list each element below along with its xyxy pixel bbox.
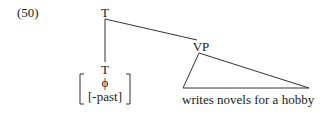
node-root-t: T <box>101 6 109 19</box>
left-bracket <box>80 74 84 104</box>
vp-triangle <box>183 53 309 88</box>
vp-content-text: writes novels for a hobby <box>182 93 314 106</box>
node-vp: VP <box>193 40 210 53</box>
feature-past: [-past] <box>88 90 122 103</box>
right-bracket <box>126 74 130 104</box>
branch-root-to-vp <box>105 19 197 40</box>
feature-phi: ϕ <box>102 76 109 89</box>
